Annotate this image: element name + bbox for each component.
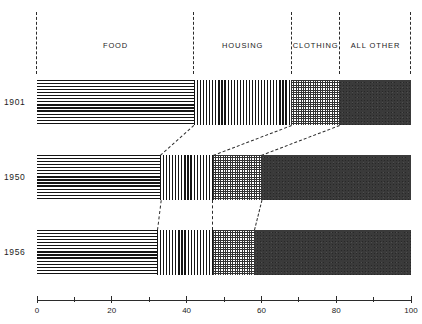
- axis-tick-60: [261, 296, 262, 303]
- axis-tick-50: [224, 297, 225, 302]
- bar-row-1956: [0, 230, 422, 275]
- axis-tick-label-80: 80: [332, 306, 341, 315]
- bar-segment-1901-all-other: [340, 80, 411, 125]
- header-divider-3: [339, 12, 340, 74]
- stacked-bar-chart: FOODHOUSINGCLOTHINGALL OTHER190119501956…: [0, 0, 422, 324]
- connector-1901-1950-housing: [160, 125, 194, 156]
- axis-tick-label-60: 60: [257, 306, 266, 315]
- bar-segment-1950-housing: [160, 155, 212, 200]
- axis-tick-label-100: 100: [404, 306, 417, 315]
- axis-tick-label-0: 0: [35, 306, 39, 315]
- bar-segment-1901-housing: [194, 80, 291, 125]
- axis-tick-label-20: 20: [107, 306, 116, 315]
- axis-tick-40: [186, 296, 187, 303]
- axis-tick-30: [149, 297, 150, 302]
- connector-1950-1956-housing: [157, 200, 162, 230]
- bar-segment-1956-housing: [157, 230, 213, 275]
- bar-segment-1956-food: [37, 230, 157, 275]
- bar-row-1901: [0, 80, 422, 125]
- axis-tick-label-40: 40: [182, 306, 191, 315]
- category-label-food: FOOD: [103, 41, 128, 50]
- category-label-clothing: CLOTHING: [293, 41, 339, 50]
- bar-segment-1901-food: [37, 80, 194, 125]
- axis-tick-10: [74, 297, 75, 302]
- bar-segment-1956-clothing: [213, 230, 254, 275]
- category-label-all-other: ALL OTHER: [351, 41, 401, 50]
- axis-tick-90: [373, 297, 374, 302]
- axis-tick-20: [111, 296, 112, 303]
- connector-1950-1956-clothing: [212, 200, 213, 230]
- bar-segment-1950-all-other: [261, 155, 411, 200]
- connector-1950-1956-all-other: [254, 200, 262, 230]
- header-divider-1: [193, 12, 194, 74]
- bar-segment-1950-food: [37, 155, 160, 200]
- category-label-housing: HOUSING: [222, 41, 263, 50]
- bar-segment-1950-clothing: [213, 155, 262, 200]
- connector-1901-1950-clothing: [213, 125, 292, 156]
- bar-row-1950: [0, 155, 422, 200]
- bar-segment-1956-all-other: [254, 230, 411, 275]
- bar-segment-1901-clothing: [291, 80, 340, 125]
- axis-tick-0: [37, 296, 38, 303]
- connector-1901-1950-all-other: [261, 125, 340, 156]
- header-divider-2: [291, 12, 292, 74]
- axis-tick-70: [298, 297, 299, 302]
- axis-tick-100: [411, 296, 412, 303]
- header-divider-0: [36, 12, 37, 74]
- axis-tick-80: [336, 296, 337, 303]
- header-divider-4: [410, 12, 411, 74]
